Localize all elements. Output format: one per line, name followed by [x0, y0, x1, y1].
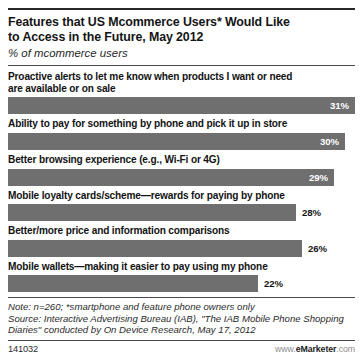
bar-track: 29%: [8, 169, 355, 186]
bar-row: Mobile wallets—making it easier to pay u…: [8, 261, 355, 293]
bar-row: Better browsing experience (e.g., Wi-Fi …: [8, 154, 355, 186]
note-and-source-text: Note: n=260; *smartphone and feature pho…: [8, 301, 355, 336]
bar-track: 28%: [8, 204, 355, 221]
bar-value-label: 22%: [258, 278, 283, 289]
chart-title: Features that US Mcommerce Users* Would …: [8, 15, 298, 44]
bar-category-label: Mobile wallets—making it easier to pay u…: [8, 261, 355, 273]
bar-category-label: Ability to pay for something by phone an…: [8, 118, 355, 130]
bar-track: 26%: [8, 240, 355, 257]
bar-row: Mobile loyalty cards/scheme—rewards for …: [8, 190, 355, 222]
chart-footer: Note: n=260; *smartphone and feature pho…: [8, 297, 355, 354]
bar-value-label: 28%: [296, 207, 321, 218]
brand-suffix: .com: [336, 344, 355, 354]
bar-fill: [8, 240, 302, 257]
footer-bottom-row: 141032 www.eMarketer.com: [8, 341, 355, 354]
bar-category-label: Mobile loyalty cards/scheme—rewards for …: [8, 190, 355, 202]
bar-track: 31%: [8, 97, 355, 114]
bar-fill: [8, 275, 258, 292]
bar-track: 22%: [8, 275, 355, 292]
bar-value-label: 30%: [320, 136, 345, 147]
bar-value-label: 31%: [330, 100, 355, 111]
bar-category-label: Better browsing experience (e.g., Wi-Fi …: [8, 154, 355, 166]
brand-name: eMarketer: [296, 344, 337, 354]
chart-header: Features that US Mcommerce Users* Would …: [8, 0, 355, 66]
emarketer-brand[interactable]: www.eMarketer.com: [275, 344, 355, 354]
brand-prefix: www.: [275, 344, 296, 354]
bar-chart-plot: Proactive alerts to let me know when pro…: [8, 66, 355, 292]
emarketer-chart-card: Features that US Mcommerce Users* Would …: [0, 0, 363, 362]
bar-fill: 29%: [8, 169, 334, 186]
header-top-rule: [8, 8, 355, 10]
bar-row: Proactive alerts to let me know when pro…: [8, 71, 355, 114]
bar-fill: 31%: [8, 97, 355, 114]
bar-fill: [8, 204, 296, 221]
bar-value-label: 29%: [309, 172, 334, 183]
bar-track: 30%: [8, 133, 355, 150]
bar-category-label: Better/more price and information compar…: [8, 225, 355, 237]
bar-fill: 30%: [8, 133, 345, 150]
bar-row: Ability to pay for something by phone an…: [8, 118, 355, 150]
chart-id: 141032: [8, 344, 38, 354]
footer-top-rule: [8, 297, 355, 298]
bar-value-label: 26%: [302, 243, 327, 254]
bar-category-label: Proactive alerts to let me know when pro…: [8, 71, 355, 94]
bar-row: Better/more price and information compar…: [8, 225, 355, 257]
chart-subtitle: % of mcommerce users: [8, 47, 355, 60]
